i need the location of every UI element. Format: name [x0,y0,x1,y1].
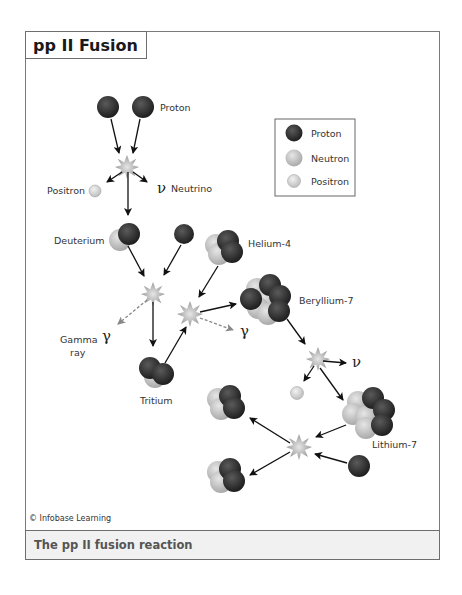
legend-proton-swatch [286,125,303,142]
legend: Proton Neutron Positron [275,119,355,196]
copyright-credit: © Infobase Learning [29,514,111,523]
reaction-arrow [315,454,347,463]
reaction-arrow [133,172,147,182]
reaction-arrow [165,327,186,363]
legend-label: Neutron [311,153,349,164]
gamma-symbol: γ [102,327,111,345]
lithium-7-nucleus [342,387,395,439]
legend-neutron-swatch [286,150,303,167]
neutrino-symbol: ν [157,179,166,197]
reaction-arrow [128,246,144,276]
legend-label: Proton [311,128,342,139]
positron-label: Positron [47,185,85,196]
lithium-7-label: Lithium-7 [372,439,417,450]
reaction-arrow [133,119,140,153]
proton-particle [132,96,154,118]
proton-label: Proton [160,102,191,113]
reaction-arrow [164,245,181,275]
deuterium-nucleus [109,223,140,251]
gamma-ray-label: ray [70,347,86,358]
positron-particle [89,185,101,197]
proton-particle [174,224,194,244]
beryllium-7-nucleus [240,274,291,325]
neutrino-symbol: ν [352,353,361,371]
reaction-burst-icon [115,155,139,179]
deuterium-label: Deuterium [54,235,105,246]
reaction-arrow [111,119,119,153]
proton-particle [348,455,370,477]
reaction-arrow [316,425,346,437]
reaction-arrow [287,319,305,344]
figure-title: pp II Fusion [25,31,147,59]
neutrino-label: Neutrino [171,183,212,194]
tritium-nucleus [139,357,174,388]
reaction-arrow [320,368,343,400]
reaction-arrow [304,366,314,381]
reaction-arrow [250,418,290,443]
legend-positron-swatch [288,175,301,188]
reaction-arrow [323,361,346,363]
reaction-burst-icon [286,434,312,460]
reaction-burst-icon [306,347,330,371]
reaction-arrow [250,452,290,475]
helium-4-nucleus [207,458,245,493]
reaction-arrow [107,172,122,182]
helium-4-nucleus [205,230,243,265]
legend-label: Positron [311,176,349,187]
tritium-label: Tritium [139,395,173,406]
gamma-arrow [118,300,147,324]
gamma-arrow [200,318,233,330]
reaction-arrow [200,304,236,312]
helium-4-label: Helium-4 [248,238,291,249]
reaction-arrow [199,266,218,297]
gamma-symbol: γ [240,322,249,340]
reaction-burst-icon [177,301,203,327]
fusion-diagram: Proton Positron ν Neutrino Deuterium γ G… [0,0,462,595]
helium-4-nucleus [207,385,245,420]
positron-particle [291,387,304,400]
proton-particle [97,96,119,118]
gamma-ray-label: Gamma [60,334,98,345]
figure-caption: The pp II fusion reaction [25,530,440,560]
beryllium-7-label: Beryllium-7 [299,295,354,306]
